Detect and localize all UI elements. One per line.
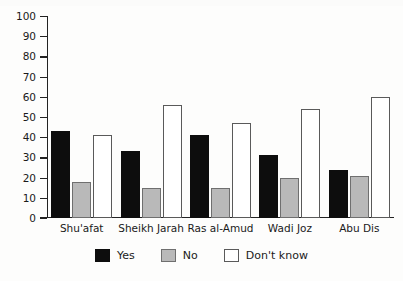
bar-yes	[329, 170, 348, 218]
bar-no	[280, 178, 299, 218]
y-axis-tick	[40, 178, 47, 179]
y-axis-tick-label: 50	[23, 112, 36, 123]
legend-label: Yes	[117, 250, 135, 261]
x-axis-label: Wadi Joz	[268, 223, 312, 234]
bar-don-t-know	[163, 105, 182, 218]
y-axis-tick-label: 60	[23, 92, 36, 103]
y-axis-tick	[40, 56, 47, 57]
legend-label: Don't know	[246, 250, 308, 261]
legend-label: No	[183, 250, 198, 261]
legend-swatch-icon	[161, 249, 176, 262]
chart-legend: YesNoDon't know	[0, 249, 403, 262]
y-axis-tick-label: 80	[23, 51, 36, 62]
scan-artifact-strip	[0, 0, 403, 6]
y-axis-tick-label: 90	[23, 31, 36, 42]
legend-item: Yes	[95, 249, 135, 262]
y-axis-tick	[40, 198, 47, 199]
y-axis-tick-label: 30	[23, 152, 36, 163]
y-axis-tick-label: 0	[29, 213, 36, 224]
y-axis-tick	[40, 77, 47, 78]
bar-no	[142, 188, 161, 218]
legend-item: No	[161, 249, 198, 262]
legend-swatch-icon	[224, 249, 239, 262]
bar-yes	[51, 131, 70, 218]
x-axis-label: Shu'afat	[60, 223, 104, 234]
bar-don-t-know	[301, 109, 320, 218]
y-axis-tick	[40, 137, 47, 138]
legend-swatch-icon	[95, 249, 110, 262]
y-axis-tick	[40, 36, 47, 37]
y-axis-tick	[40, 97, 47, 98]
y-axis-tick	[40, 16, 47, 17]
bar-yes	[190, 135, 209, 218]
bar-group	[47, 16, 116, 218]
y-axis-tick-label: 10	[23, 193, 36, 204]
bar-chart: 1009080706050403020100 Shu'afatSheikh Ja…	[0, 0, 403, 281]
bar-no	[350, 176, 369, 218]
y-axis-tick	[40, 117, 47, 118]
bar-yes	[259, 155, 278, 218]
y-axis-tick	[40, 218, 47, 219]
x-axis-label: Ras al-Amud	[188, 223, 254, 234]
bar-don-t-know	[93, 135, 112, 218]
legend-item: Don't know	[224, 249, 308, 262]
y-axis-tick-label: 40	[23, 132, 36, 143]
x-axis-label: Sheikh Jarah	[118, 223, 184, 234]
bar-group	[325, 16, 394, 218]
y-axis-tick	[40, 157, 47, 158]
bar-no	[72, 182, 91, 218]
plot-area	[47, 16, 394, 218]
y-axis-tick-label: 100	[16, 11, 36, 22]
bar-don-t-know	[371, 97, 390, 218]
bar-group	[116, 16, 185, 218]
x-axis-label: Abu Dis	[339, 223, 379, 234]
bar-group	[255, 16, 324, 218]
y-axis-tick-label: 20	[23, 172, 36, 183]
y-axis-tick-label: 70	[23, 71, 36, 82]
bar-no	[211, 188, 230, 218]
bar-group	[186, 16, 255, 218]
bar-don-t-know	[232, 123, 251, 218]
bar-yes	[121, 151, 140, 218]
